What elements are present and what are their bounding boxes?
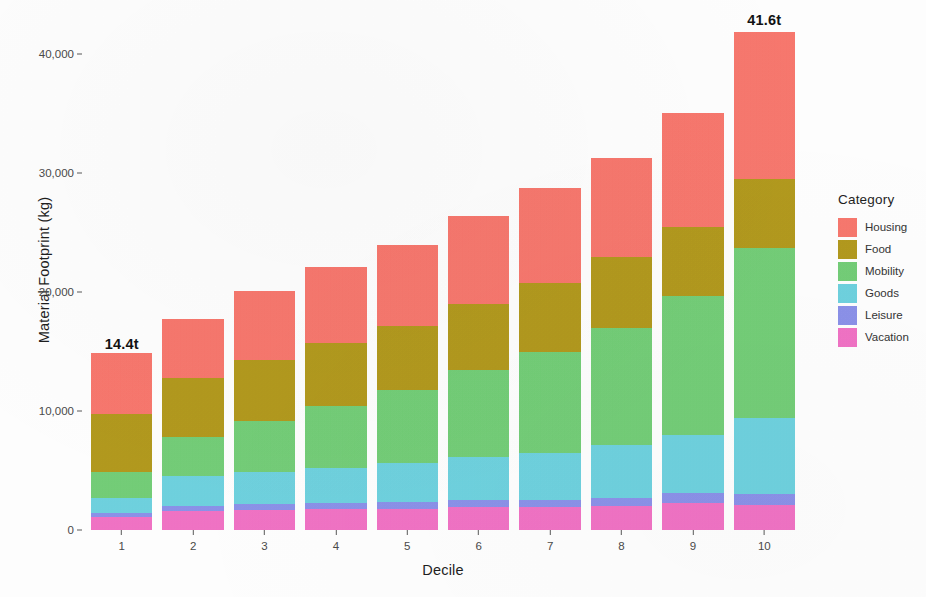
bar-segment-vacation[interactable] xyxy=(377,509,438,530)
bar-segment-food[interactable] xyxy=(734,179,795,248)
legend-item-label: Vacation xyxy=(865,331,909,343)
x-axis-title: Decile xyxy=(86,562,800,578)
bar-segment-vacation[interactable] xyxy=(91,517,152,530)
x-axis-tick-label: 7 xyxy=(547,540,553,552)
legend-item-housing[interactable]: Housing xyxy=(838,216,926,238)
x-axis-tick-mark xyxy=(121,530,122,535)
y-axis-tick-label: 10,000 xyxy=(18,405,74,417)
bar-segment-housing[interactable] xyxy=(448,216,509,304)
legend-item-vacation[interactable]: Vacation xyxy=(838,326,926,348)
bar-segment-food[interactable] xyxy=(162,378,223,438)
x-axis-tick-mark xyxy=(478,530,479,535)
bar-segment-goods[interactable] xyxy=(91,498,152,512)
bar-segment-housing[interactable] xyxy=(591,158,652,257)
legend-item-leisure[interactable]: Leisure xyxy=(838,304,926,326)
bar-segment-goods[interactable] xyxy=(734,418,795,494)
legend-item-label: Food xyxy=(865,243,891,255)
bar-segment-food[interactable] xyxy=(305,343,366,406)
bar-segment-vacation[interactable] xyxy=(448,507,509,530)
legend-item-label: Mobility xyxy=(865,265,904,277)
y-axis-tick-marks xyxy=(77,0,85,597)
bar-segment-goods[interactable] xyxy=(234,472,295,504)
bar-segment-vacation[interactable] xyxy=(734,505,795,530)
bar-segment-mobility[interactable] xyxy=(448,370,509,457)
bar-segment-vacation[interactable] xyxy=(591,506,652,530)
bar-stack[interactable] xyxy=(519,200,580,530)
bar-segment-housing[interactable] xyxy=(305,267,366,343)
bar-segment-food[interactable] xyxy=(91,414,152,472)
x-axis-tick-mark xyxy=(550,530,551,535)
bar-segment-leisure[interactable] xyxy=(448,500,509,507)
bar-stack[interactable] xyxy=(591,173,652,530)
bar-segment-vacation[interactable] xyxy=(234,510,295,530)
legend-item-food[interactable]: Food xyxy=(838,238,926,260)
bar-stack[interactable] xyxy=(662,133,723,530)
x-axis-tick: 4 xyxy=(333,530,339,552)
bar-stack[interactable] xyxy=(91,359,152,530)
bar-segment-vacation[interactable] xyxy=(162,511,223,530)
x-axis-tick-mark xyxy=(335,530,336,535)
bar-segment-leisure[interactable] xyxy=(234,504,295,509)
bar-segment-housing[interactable] xyxy=(377,245,438,326)
plot-panel: 14.4t41.6t xyxy=(86,12,800,530)
bar-segment-mobility[interactable] xyxy=(662,296,723,435)
bar-segment-leisure[interactable] xyxy=(734,494,795,505)
bar-segment-goods[interactable] xyxy=(377,463,438,502)
bar-segment-mobility[interactable] xyxy=(519,352,580,453)
bar-stack[interactable] xyxy=(734,35,795,530)
bar-segment-mobility[interactable] xyxy=(234,421,295,472)
bar-segment-leisure[interactable] xyxy=(91,513,152,517)
bar-segment-leisure[interactable] xyxy=(162,506,223,511)
bar-segment-mobility[interactable] xyxy=(591,328,652,446)
x-axis-tick: 5 xyxy=(404,530,410,552)
bar-stack[interactable] xyxy=(377,251,438,530)
y-axis-tick-mark xyxy=(77,530,82,531)
legend-item-goods[interactable]: Goods xyxy=(838,282,926,304)
bar-segment-leisure[interactable] xyxy=(662,493,723,503)
bar-segment-housing[interactable] xyxy=(734,32,795,178)
bar-segment-vacation[interactable] xyxy=(305,509,366,530)
bar-stack[interactable] xyxy=(448,225,509,530)
x-axis-tick-mark xyxy=(407,530,408,535)
bar-segment-food[interactable] xyxy=(519,283,580,352)
bar-segment-housing[interactable] xyxy=(519,188,580,283)
bar-segment-leisure[interactable] xyxy=(591,498,652,506)
x-axis-tick: 3 xyxy=(261,530,267,552)
bar-segment-goods[interactable] xyxy=(448,457,509,500)
bar-segment-housing[interactable] xyxy=(91,353,152,414)
bar-segment-goods[interactable] xyxy=(591,445,652,497)
bar-segment-goods[interactable] xyxy=(305,468,366,503)
bar-segment-mobility[interactable] xyxy=(162,437,223,476)
bar-segment-mobility[interactable] xyxy=(734,248,795,418)
bar-segment-mobility[interactable] xyxy=(91,472,152,498)
bar-segment-leisure[interactable] xyxy=(305,503,366,509)
bar-segment-food[interactable] xyxy=(591,257,652,327)
bar-segment-vacation[interactable] xyxy=(662,503,723,530)
bar-segment-food[interactable] xyxy=(377,326,438,390)
legend-items: HousingFoodMobilityGoodsLeisureVacation xyxy=(838,216,926,348)
bar-segment-food[interactable] xyxy=(234,360,295,421)
bar-segment-mobility[interactable] xyxy=(377,390,438,463)
bar-stack[interactable] xyxy=(162,319,223,530)
bar-segment-food[interactable] xyxy=(448,304,509,371)
y-axis-tick-label: 30,000 xyxy=(18,167,74,179)
bar-stack[interactable] xyxy=(305,272,366,530)
bar-value-label: 41.6t xyxy=(747,12,781,28)
bar-segment-housing[interactable] xyxy=(234,291,295,360)
bar-segment-mobility[interactable] xyxy=(305,406,366,468)
legend-item-mobility[interactable]: Mobility xyxy=(838,260,926,282)
legend-item-label: Goods xyxy=(865,287,899,299)
bar-segment-vacation[interactable] xyxy=(519,507,580,530)
bar-segment-leisure[interactable] xyxy=(519,500,580,508)
bar-segment-housing[interactable] xyxy=(162,319,223,377)
x-axis-tick-label: 9 xyxy=(690,540,696,552)
x-axis-tick-mark xyxy=(621,530,622,535)
bar-segment-goods[interactable] xyxy=(662,435,723,492)
bar-segment-food[interactable] xyxy=(662,227,723,296)
bar-segment-housing[interactable] xyxy=(662,113,723,227)
bar-segment-goods[interactable] xyxy=(519,453,580,499)
bar-segment-leisure[interactable] xyxy=(377,502,438,509)
bar-segment-goods[interactable] xyxy=(162,476,223,506)
legend-swatch-icon xyxy=(838,306,857,325)
bar-stack[interactable] xyxy=(234,294,295,530)
